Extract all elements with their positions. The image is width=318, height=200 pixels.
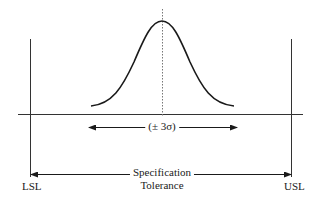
spec-label-line2: Tolerance	[133, 179, 191, 192]
lsl-label: LSL	[22, 181, 42, 192]
usl-label: USL	[284, 181, 305, 192]
spec-tolerance-label: Specification Tolerance	[130, 166, 194, 192]
spec-label-line1: Specification	[133, 166, 191, 179]
sigma-range-label: (± 3σ)	[145, 121, 179, 132]
